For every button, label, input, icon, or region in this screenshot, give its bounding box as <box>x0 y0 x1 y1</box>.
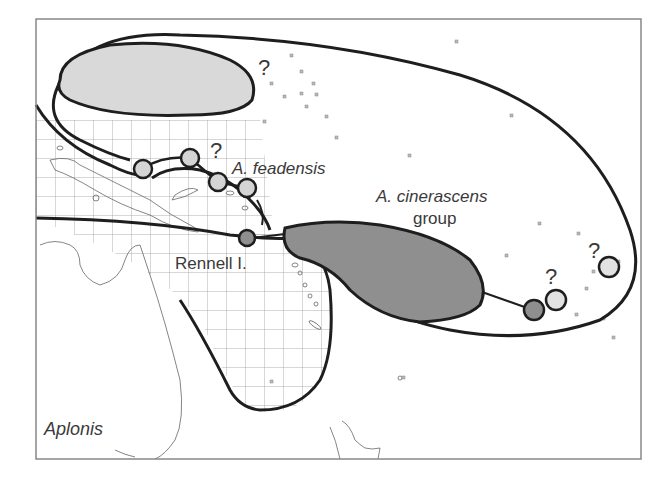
population-east-light-2 <box>599 257 619 277</box>
question-mark-north: ? <box>258 57 270 79</box>
distribution-map <box>0 0 672 487</box>
population-east-dark <box>524 300 544 320</box>
label-a-cinerascens: A. cinerascens <box>376 188 488 205</box>
population-feadensis-4 <box>238 179 256 197</box>
question-mark-feadensis: ? <box>210 140 222 162</box>
population-feadensis-1 <box>134 160 152 178</box>
label-rennell-island: Rennell I. <box>175 255 247 272</box>
range-north-light <box>59 43 254 115</box>
question-mark-east-1: ? <box>545 266 557 288</box>
population-rennell <box>239 230 255 246</box>
population-east-light-1 <box>546 290 566 310</box>
population-feadensis-3 <box>209 173 227 191</box>
label-group: group <box>413 210 456 227</box>
coastline-new-zealand <box>342 421 380 459</box>
coastline-nz-west <box>330 427 340 459</box>
label-genus-aplonis: Aplonis <box>44 420 103 438</box>
coastline-australia-south <box>115 450 135 457</box>
question-mark-east-2: ? <box>588 240 600 262</box>
label-a-feadensis: A. feadensis <box>232 160 326 177</box>
population-feadensis-2 <box>181 149 199 167</box>
